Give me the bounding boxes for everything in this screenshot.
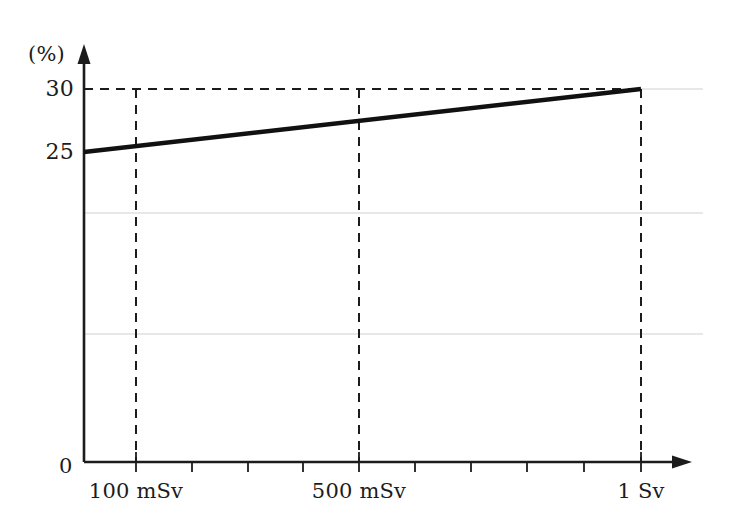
y-axis-arrowhead — [78, 44, 91, 64]
data-line — [84, 89, 641, 152]
axes — [78, 44, 693, 469]
guide-lines — [84, 89, 641, 462]
line-chart: (%) 30 25 0 100 mSv 500 mSv 1 Sv — [0, 0, 730, 523]
x-tick-label-500msv: 500 mSv — [279, 481, 439, 502]
x-tick-label-100msv: 100 mSv — [56, 481, 216, 502]
y-tick-label-30: 30 — [24, 78, 74, 100]
data-series-risk — [84, 89, 641, 152]
y-axis-unit-label: (%) — [28, 44, 65, 65]
gridlines — [84, 89, 703, 334]
chart-screenshot: (%) 30 25 0 100 mSv 500 mSv 1 Sv — [0, 0, 730, 523]
x-axis-arrowhead — [672, 456, 692, 469]
y-tick-label-25: 25 — [24, 141, 74, 163]
origin-label: 0 — [59, 456, 73, 477]
chart-canvas — [0, 0, 730, 523]
x-tick-label-1sv: 1 Sv — [581, 481, 701, 502]
